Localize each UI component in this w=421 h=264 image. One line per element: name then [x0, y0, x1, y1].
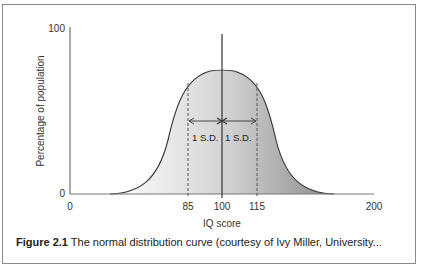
figure-caption: Figure 2.1 The normal distribution curve…	[16, 236, 382, 248]
x-tick-85: 85	[182, 201, 194, 212]
y-tick-100: 100	[48, 23, 65, 34]
x-tick-100: 100	[214, 201, 231, 212]
sd-label-right: 1 S.D.	[225, 132, 251, 143]
figure-number: Figure 2.1	[16, 236, 68, 248]
x-axis-title: IQ score	[203, 218, 241, 229]
x-tick-115: 115	[249, 201, 265, 212]
figure-caption-text: The normal distribution curve (courtesy …	[71, 236, 382, 248]
y-tick-0: 0	[59, 188, 65, 199]
x-tick-0: 0	[67, 201, 73, 212]
y-axis-title: Percentage of population	[35, 55, 46, 166]
x-tick-200: 200	[366, 201, 383, 212]
sd-label-left: 1 S.D.	[192, 132, 218, 143]
